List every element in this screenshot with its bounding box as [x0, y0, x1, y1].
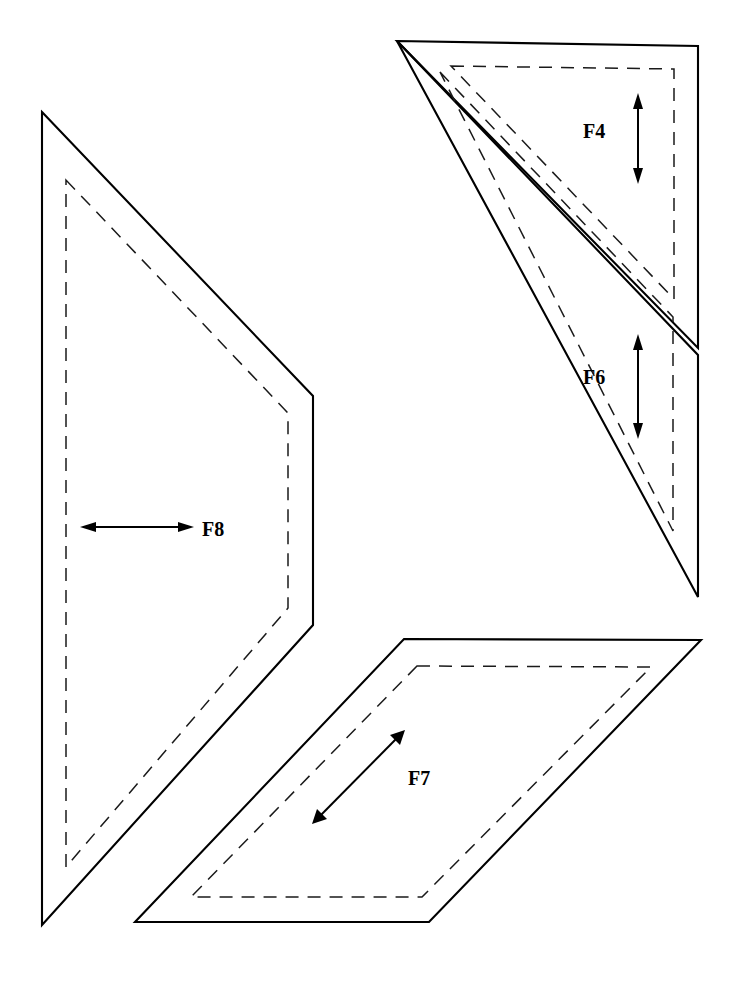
f6-cut-line: [397, 41, 698, 597]
f4-grain-arrow-head-down: [633, 168, 643, 184]
f8-grain-arrow: [80, 522, 194, 532]
f6-piece-label: F6: [583, 366, 605, 388]
f8-grain-arrow-head-left: [80, 522, 96, 532]
f8-seam-line: [66, 180, 288, 867]
f4-grain-arrow-head-up: [633, 93, 643, 109]
f8-cut-line: [42, 112, 313, 925]
pattern-diagram-canvas: F4 F6 F8: [0, 0, 734, 982]
f8-piece-label: F8: [202, 518, 224, 540]
f8-grain-arrow-head-right: [178, 522, 194, 532]
f4-piece-label: F4: [583, 120, 605, 142]
pattern-piece-f6[interactable]: F6: [397, 41, 698, 597]
f4-seam-line: [451, 66, 674, 299]
pattern-diagram-page: F4 F6 F8: [0, 0, 734, 982]
f7-grain-arrow-shaft: [319, 737, 398, 817]
f7-grain-arrow: [312, 730, 405, 824]
f6-grain-arrow: [633, 334, 643, 439]
f6-grain-arrow-head-down: [633, 423, 643, 439]
f7-piece-label: F7: [408, 767, 430, 789]
pattern-piece-f7[interactable]: F7: [135, 639, 701, 922]
pattern-piece-f8[interactable]: F8: [42, 112, 313, 925]
f6-grain-arrow-head-up: [633, 334, 643, 350]
f4-grain-arrow: [633, 93, 643, 184]
